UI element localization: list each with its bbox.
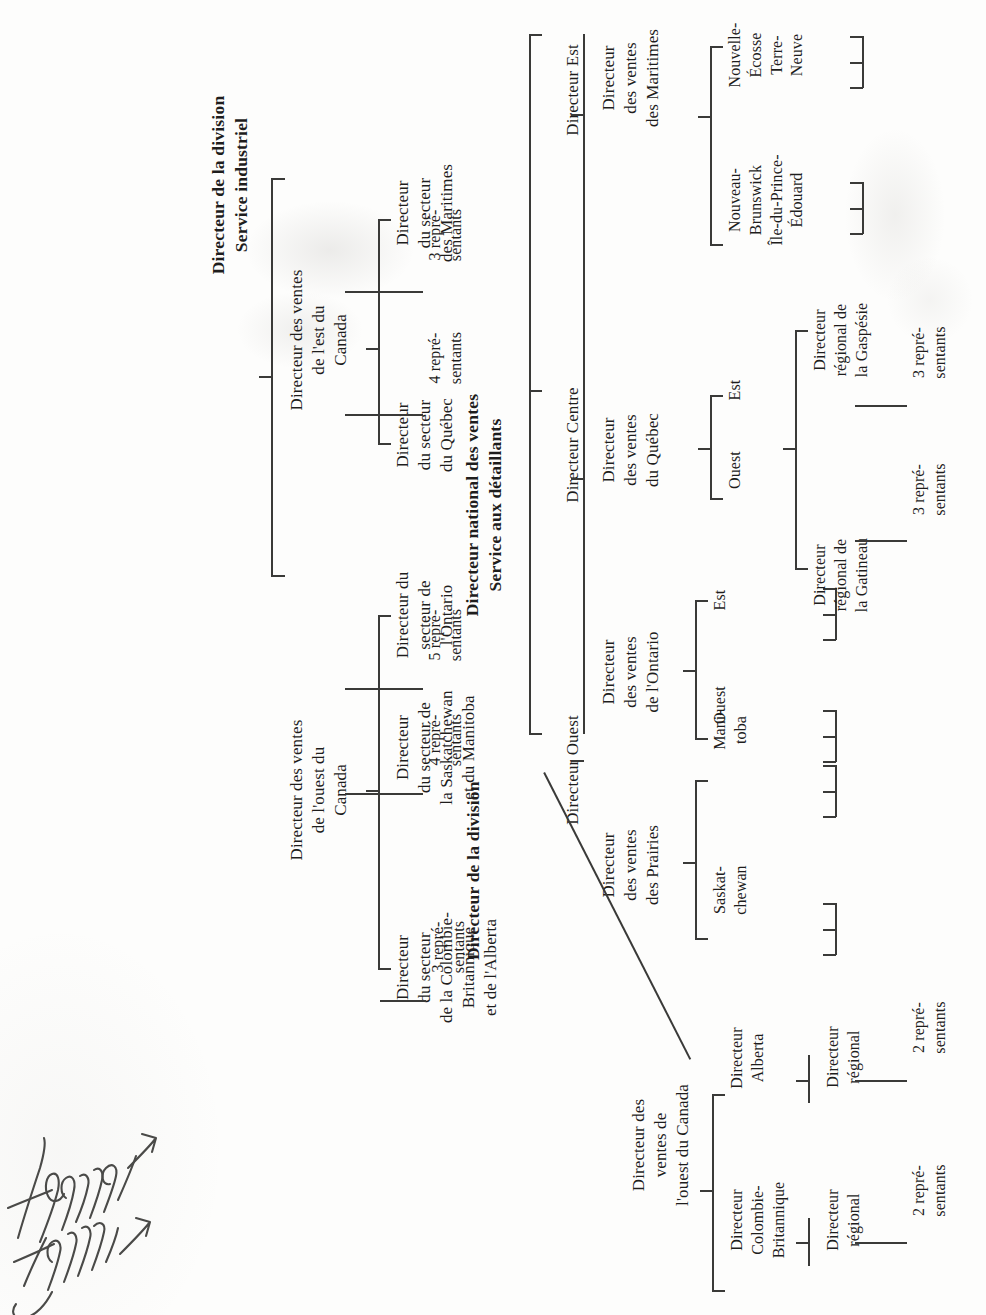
chart2-stem-ouest [571,760,584,762]
chart2-bracket-sask-bot [823,954,836,956]
chart3-alberta-stem [796,1080,809,1082]
chart1-title-line1: Directeur de la division [207,80,230,290]
chart2-bracket-nb-top [850,182,863,184]
chart1-west-drop-bc [378,968,391,970]
chart2-maritimes-stem [698,116,711,118]
chart2-bracket-manitoba-mid [823,791,836,793]
chart3-reps-bc: 2 repré- sentants [909,1128,951,1253]
chart2-bracket-ontario-ouest-mid [823,736,836,738]
chart2-node-nouveau-brunswick: Nouveau- Brunswick Île-du-Prince- Édouar… [725,135,808,265]
chart2-stem-centre [571,478,584,480]
chart1-maritimes-connector [345,291,423,293]
chart3-reps-alberta: 2 repré- sentants [909,965,951,1090]
chart1-west-drop-ontario [378,615,391,617]
chart1-east-drop-maritimes [378,219,391,221]
chart2-node-ontario-est: Est [710,555,731,645]
chart2-bracket-ontario-ouest-bot [823,761,836,763]
chart1-node-east-l1: Directeur des ventes de l'est du Canada [286,210,352,470]
chart3-alberta-bus [808,1055,810,1103]
chart2-title-line2: Service aux détaillants [484,360,507,650]
chart2-root-bus [529,34,531,734]
chart2-node-ventes-quebec: Directeur des ventes du Québec [598,360,664,540]
chart2-stem-est [571,114,584,116]
chart1-title-line2: Service industriel [230,80,253,290]
chart2-quebec-drop-ouest [710,498,723,500]
chart2-node-ventes-prairies: Directeur des ventes des Prairies [598,775,664,955]
chart2-prairies-bus [695,780,697,940]
chart3-node-alberta-regional: Directeur régional [823,1002,865,1112]
chart1-quebec-connector [345,414,423,416]
chart2-node-saskatchewan: Saskat- chewan [710,825,752,955]
chart1-drop-east [271,178,285,180]
chart2-drop-centre [529,390,542,392]
chart2-node-dir-ouest: Directeur Ouest [562,675,584,865]
chart1-bc-connector [380,1000,426,1002]
chart2-maritimes-drop-ne [710,46,723,48]
chart2-reps-gatineau: 3 repré- sentants [909,427,951,552]
chart3-alberta-regional-connector [855,1080,907,1082]
chart1-sask-connector [345,793,423,795]
chart1-reps-maritimes: 3 repré- sentants [425,170,467,300]
chart2-ontario-drop-ouest [695,738,708,740]
chart2-drop-ouest [529,733,542,735]
chart2-bracket-ne-bot [850,87,863,89]
chart1-east-bus [378,219,380,444]
chart2-prairies-drop-sask [695,938,708,940]
chart2-bracket-manitoba-top [823,765,836,767]
chart3-node-alberta: Directeur Alberta [727,998,769,1118]
chart2-quebec-stem [698,448,711,450]
chart2-bracket-manitoba-bot [823,816,836,818]
chart2-node-ventes-ontario: Directeur des ventes de l'Ontario [598,582,664,762]
chart2-quebec-regional-bus [795,330,797,570]
chart3-drop-bc [712,1290,725,1292]
handwritten-annotation [0,1090,180,1315]
chart2-node-nouvelle-ecosse: Nouvelle- Écosse Terre- Neuve [725,0,808,110]
chart2-gaspesie-connector [855,405,907,407]
chart1-east-stem [366,348,379,350]
chart1-reps-sask: 4 repré- sentants [425,675,467,805]
chart2-node-quebec-est: Est [725,350,746,430]
chart2-prairies-drop-man [695,780,708,782]
chart3-root-bus [712,1094,714,1292]
chart3-node-bc: Directeur Colombie- Britannique [727,1130,789,1310]
chart2-reps-gaspesie: 3 repré- sentants [909,290,951,415]
chart3-bc-regional-connector [855,1242,907,1244]
chart2-bracket-sask-mid [823,929,836,931]
chart2-maritimes-drop-nb [710,244,723,246]
chart2-title-line1: Directeur national des ventes [461,360,484,650]
chart2-node-gatineau: Directeur régional de la Gatineau [810,485,872,665]
chart2-bracket-ne-mid [850,62,863,64]
chart2-node-dir-est: Directeur Est [562,5,584,175]
chart2-gatineau-connector [855,540,907,542]
chart2-bracket-ontario-ouest-top [823,710,836,712]
chart2-quebec-regional-drop-gatineau [795,568,808,570]
chart2-ontario-stem [683,670,696,672]
chart1-west-stem [366,790,379,792]
chart3-node-west-root: Directeur des ventes de l'ouest du Canad… [628,1000,694,1290]
chart2-node-dir-centre: Directeur Centre [562,350,584,540]
chart3-root-stem [700,1190,713,1192]
chart2-drop-est [529,34,542,36]
chart2-node-ventes-maritimes: Directeur des ventes des Maritimes [598,0,664,178]
chart1-east-drop-quebec [378,443,391,445]
chart2-subtitle: Directeur de la division [462,710,485,960]
chart2-bracket-sask-top [823,903,836,905]
chart2-bracket-nb-mid [850,208,863,210]
chart2-quebec-regional-drop-gaspesie [795,330,808,332]
chart3-drop-alberta [712,1094,725,1096]
chart2-second-bus [583,34,585,734]
chart1-ontario-connector [345,688,423,690]
chart2-bracket-ne-top [850,36,863,38]
chart1-drop-west [271,575,285,577]
chart2-quebec-drop-est [710,395,723,397]
chart2-node-gaspesie: Directeur régional de la Gaspésie [810,250,872,430]
chart2-node-quebec-ouest: Ouest [725,420,746,520]
chart2-ontario-drop-est [695,600,708,602]
chart2-bracket-nb-bot [850,233,863,235]
chart1-root-stem [259,376,272,378]
chart2-node-ontario-ouest: Ouest [710,650,731,760]
chart2-prairies-stem [683,862,696,864]
chart1-node-west-l1: Directeur des ventes de l'ouest du Canad… [286,640,352,940]
chart2-maritimes-bus [710,46,712,246]
chart3-node-bc-regional: Directeur régional [823,1165,865,1275]
